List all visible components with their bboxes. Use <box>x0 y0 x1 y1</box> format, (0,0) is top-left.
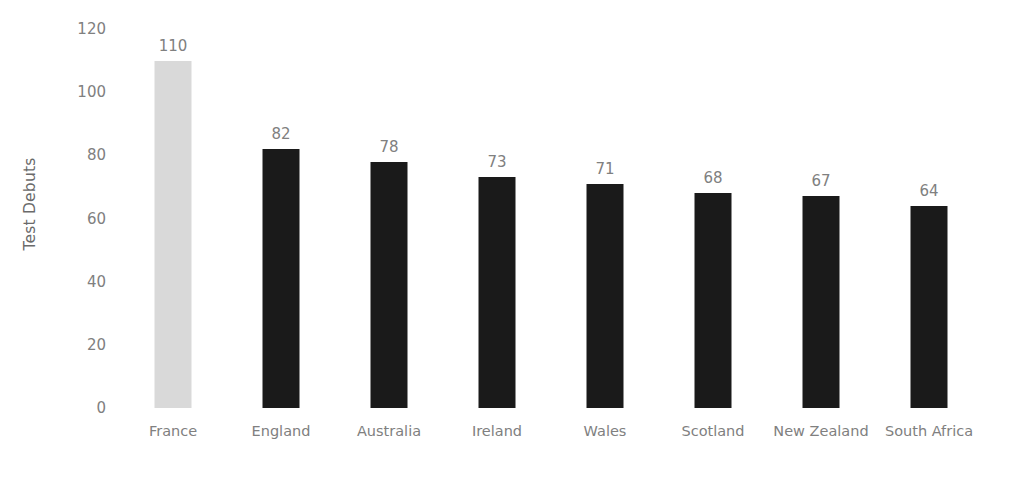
bar-value-label: 78 <box>379 140 398 155</box>
x-axis-category-label: South Africa <box>875 422 983 441</box>
bar-value-label: 64 <box>919 184 938 199</box>
bar[interactable] <box>263 149 300 408</box>
bar-value-label: 71 <box>595 162 614 177</box>
bar[interactable] <box>479 177 516 408</box>
x-axis-category-label: New Zealand <box>767 422 875 441</box>
bar-group[interactable]: 82England <box>227 0 335 491</box>
x-axis-category-label: Scotland <box>659 422 767 441</box>
bar-value-label: 67 <box>811 174 830 189</box>
bar[interactable] <box>911 206 948 408</box>
bar-value-label: 110 <box>159 39 188 54</box>
bar-group[interactable]: 71Wales <box>551 0 659 491</box>
x-axis-category-label: Ireland <box>443 422 551 441</box>
y-axis-tick-label: 40 <box>87 274 106 289</box>
bar-group[interactable]: 64South Africa <box>875 0 983 491</box>
y-axis-tick-labels: 020406080100120 <box>58 0 106 491</box>
y-axis-title: Test Debuts <box>0 0 60 408</box>
x-axis-category-label: France <box>119 422 227 441</box>
y-axis-tick-label: 120 <box>77 22 106 37</box>
x-axis-category-label: England <box>227 422 335 441</box>
bar[interactable] <box>695 193 732 408</box>
bar[interactable] <box>803 196 840 408</box>
y-axis-tick-label: 60 <box>87 211 106 226</box>
bar-group[interactable]: 110France <box>119 0 227 491</box>
bar-value-label: 82 <box>271 127 290 142</box>
x-axis-category-label: Australia <box>335 422 443 441</box>
bar[interactable] <box>155 61 192 408</box>
plot-area: 110France82England78Australia73Ireland71… <box>112 0 1014 491</box>
bar-group[interactable]: 67New Zealand <box>767 0 875 491</box>
bar-group[interactable]: 68Scotland <box>659 0 767 491</box>
y-axis-tick-label: 0 <box>96 401 106 416</box>
bar[interactable] <box>587 184 624 408</box>
bar-group[interactable]: 78Australia <box>335 0 443 491</box>
y-axis-title-text: Test Debuts <box>21 158 39 251</box>
bar[interactable] <box>371 162 408 408</box>
y-axis-tick-label: 100 <box>77 85 106 100</box>
bar-value-label: 73 <box>487 155 506 170</box>
bar-value-label: 68 <box>703 171 722 186</box>
bar-group[interactable]: 73Ireland <box>443 0 551 491</box>
x-axis-category-label: Wales <box>551 422 659 441</box>
y-axis-tick-label: 20 <box>87 337 106 352</box>
bar-chart: Test Debuts 020406080100120 110France82E… <box>0 0 1014 491</box>
y-axis-tick-label: 80 <box>87 148 106 163</box>
